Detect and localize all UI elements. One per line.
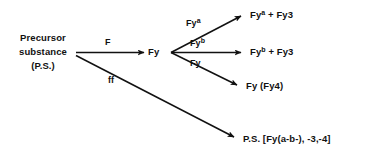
product-fya-base: Fy	[250, 9, 261, 20]
edge-label-fy-a-superscript: a	[197, 17, 201, 24]
edge-label-fy-a-base: Fy	[186, 18, 197, 28]
edge-label-fy-b-superscript: b	[201, 37, 205, 44]
product-fyb-joiner: +	[266, 46, 277, 57]
node-fy-intermediate: Fy	[148, 45, 159, 59]
edge-label-fy-branch: Fy	[190, 57, 201, 70]
arrow-fy-to-fya-fy3	[171, 16, 241, 53]
precursor-line-1: Precursor	[9, 31, 77, 45]
edge-label-fy-b-branch: Fyb	[190, 37, 205, 50]
product-fy3-base: Fy3	[276, 9, 293, 20]
edge-label-ff-gene: ff	[108, 74, 114, 87]
product-fyb-superscript: b	[261, 46, 265, 53]
product-fya-superscript: a	[261, 9, 265, 16]
node-product-fy-fy4: Fy (Fy4)	[246, 79, 283, 93]
node-product-fya-fy3: Fya + Fy3	[250, 8, 293, 22]
product-fy3-base-2: Fy3	[277, 46, 294, 57]
node-precursor-substance: Precursor substance (P.S.)	[9, 31, 77, 72]
diagram-canvas: Fy --> bottom product --> Fya + Fy3 --> …	[0, 0, 369, 157]
arrow-fy-to-fy-fy4	[171, 53, 237, 86]
precursor-line-2: substance	[9, 45, 77, 59]
product-fyb-base: Fy	[250, 46, 261, 57]
edge-label-fy-b-base: Fy	[190, 38, 201, 48]
product-fya-joiner: +	[265, 9, 276, 20]
arrow-ps-to-ps-null	[76, 56, 234, 138]
edge-label-fy-a-branch: Fya	[186, 17, 201, 30]
edge-label-f-gene: F	[105, 36, 111, 49]
precursor-line-3: (P.S.)	[9, 59, 77, 73]
node-product-fyb-fy3: Fyb + Fy3	[250, 45, 294, 59]
node-product-ps-null: P.S. [Fy(a-b-), -3,-4]	[243, 132, 331, 146]
